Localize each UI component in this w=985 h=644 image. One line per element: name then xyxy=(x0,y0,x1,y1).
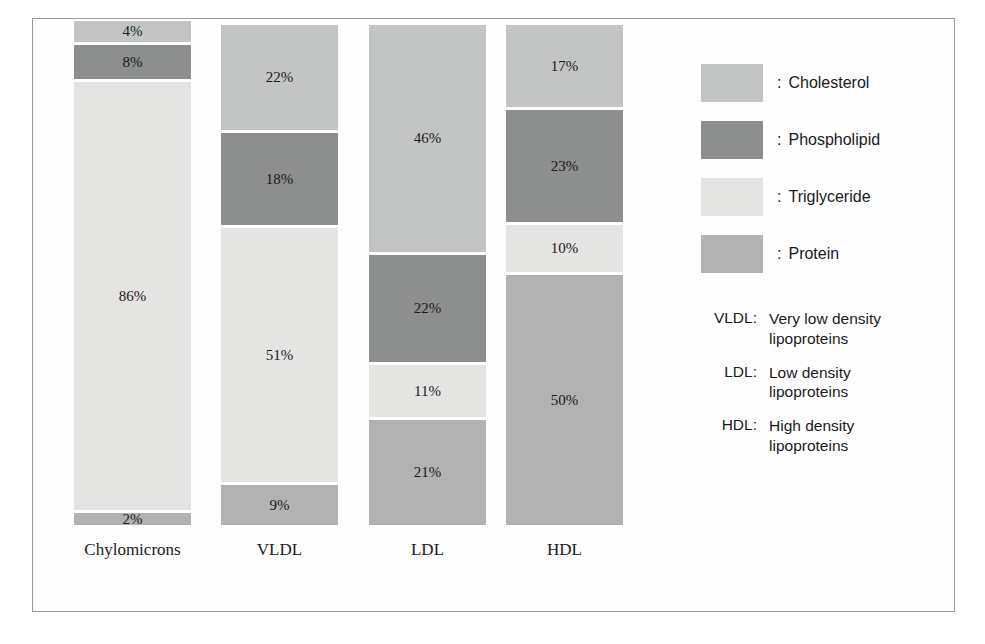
legend-swatch-cholesterol xyxy=(701,64,763,102)
segment-value-label: 17% xyxy=(551,59,579,74)
legend-label: Protein xyxy=(788,245,839,263)
legend-item-cholesterol: :Cholesterol xyxy=(701,64,941,102)
legend-item-triglyceride: :Triglyceride xyxy=(701,178,941,216)
bar-segment-protein: 21% xyxy=(369,420,486,528)
segment-value-label: 18% xyxy=(266,172,294,187)
bar-segment-protein: 9% xyxy=(221,485,338,528)
abbreviation-definition: Very low densitylipoproteins xyxy=(769,309,945,349)
segment-value-label: 23% xyxy=(551,159,579,174)
bar-stack: 4%8%86%2%Chylomicrons xyxy=(74,21,191,528)
abbreviation-definition: Low densitylipoproteins xyxy=(769,363,945,403)
segment-value-label: 51% xyxy=(266,348,294,363)
segment-value-label: 9% xyxy=(270,498,290,513)
legend-label: Triglyceride xyxy=(788,188,870,206)
legend: :Cholesterol:Phospholipid:Triglyceride:P… xyxy=(701,64,941,292)
category-label-hdl: HDL xyxy=(547,540,582,560)
bar-segment-triglyceride: 10% xyxy=(506,225,623,275)
bar-segment-cholesterol: 17% xyxy=(506,25,623,110)
stacked-bar-plot-area: 4%8%86%2%Chylomicrons22%18%51%9%VLDL46%2… xyxy=(74,41,654,586)
segment-value-label: 46% xyxy=(414,131,442,146)
legend-separator: : xyxy=(777,131,781,149)
segment-value-label: 21% xyxy=(414,465,442,480)
abbreviation-definition-line2: lipoproteins xyxy=(769,329,945,349)
legend-separator: : xyxy=(777,245,781,263)
segment-value-label: 10% xyxy=(551,241,579,256)
abbreviation-definition-line2: lipoproteins xyxy=(769,436,945,456)
bar-segment-triglyceride: 86% xyxy=(74,82,191,513)
legend-item-phospholipid: :Phospholipid xyxy=(701,121,941,159)
legend-item-protein: :Protein xyxy=(701,235,941,273)
bar-column-ldl: 46%22%11%21%LDL xyxy=(369,25,486,528)
legend-separator: : xyxy=(777,74,781,92)
bar-segment-cholesterol: 22% xyxy=(221,25,338,133)
bar-column-hdl: 17%23%10%50%HDL xyxy=(506,25,623,528)
segment-value-label: 50% xyxy=(551,393,579,408)
abbreviation-row-vldl: VLDL:Very low densitylipoproteins xyxy=(695,309,945,349)
segment-value-label: 4% xyxy=(123,24,143,39)
figure-frame: 4%8%86%2%Chylomicrons22%18%51%9%VLDL46%2… xyxy=(32,18,955,612)
abbreviation-key: VLDL:Very low densitylipoproteinsLDL:Low… xyxy=(695,309,945,470)
legend-swatch-phospholipid xyxy=(701,121,763,159)
bar-segment-phospholipid: 8% xyxy=(74,45,191,82)
abbreviation-row-hdl: HDL:High densitylipoproteins xyxy=(695,416,945,456)
bar-stack: 22%18%51%9%VLDL xyxy=(221,25,338,528)
category-label-ldl: LDL xyxy=(411,540,444,560)
bar-segment-cholesterol: 46% xyxy=(369,25,486,255)
category-label-vldl: VLDL xyxy=(257,540,302,560)
abbreviation-definition: High densitylipoproteins xyxy=(769,416,945,456)
legend-swatch-protein xyxy=(701,235,763,273)
bar-segment-phospholipid: 18% xyxy=(221,133,338,228)
legend-swatch-triglyceride xyxy=(701,178,763,216)
abbreviation-row-ldl: LDL:Low densitylipoproteins xyxy=(695,363,945,403)
segment-value-label: 22% xyxy=(414,301,442,316)
segment-value-label: 22% xyxy=(266,70,294,85)
abbreviation-definition-line1: Low density xyxy=(769,364,851,381)
legend-label: Phospholipid xyxy=(788,131,880,149)
bar-stack: 17%23%10%50%HDL xyxy=(506,25,623,528)
abbreviation-definition-line2: lipoproteins xyxy=(769,382,945,402)
bar-column-vldl: 22%18%51%9%VLDL xyxy=(221,25,338,528)
bar-segment-triglyceride: 51% xyxy=(221,228,338,485)
bar-segment-triglyceride: 11% xyxy=(369,365,486,420)
category-label-chylomicrons: Chylomicrons xyxy=(84,540,180,560)
bar-segment-phospholipid: 23% xyxy=(506,110,623,225)
legend-separator: : xyxy=(777,188,781,206)
segment-value-label: 2% xyxy=(123,512,143,527)
bar-segment-protein: 2% xyxy=(74,513,191,528)
abbreviation-key-text: VLDL: xyxy=(695,309,769,349)
bar-segment-protein: 50% xyxy=(506,275,623,528)
segment-value-label: 86% xyxy=(119,289,147,304)
bar-segment-phospholipid: 22% xyxy=(369,255,486,365)
abbreviation-key-text: LDL: xyxy=(695,363,769,403)
segment-value-label: 8% xyxy=(123,55,143,70)
bar-segment-cholesterol: 4% xyxy=(74,21,191,45)
bar-column-chylomicrons: 4%8%86%2%Chylomicrons xyxy=(74,21,191,528)
legend-label: Cholesterol xyxy=(788,74,869,92)
abbreviation-definition-line1: High density xyxy=(769,417,854,434)
abbreviation-key-text: HDL: xyxy=(695,416,769,456)
abbreviation-definition-line1: Very low density xyxy=(769,310,881,327)
segment-value-label: 11% xyxy=(414,384,441,399)
bar-stack: 46%22%11%21%LDL xyxy=(369,25,486,528)
